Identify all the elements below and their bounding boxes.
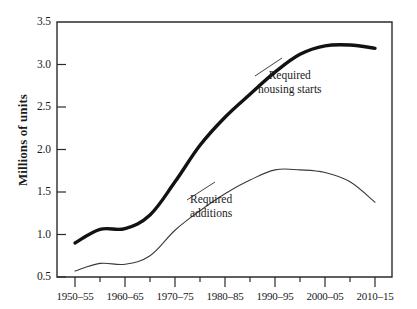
y-tick-label: 0.5 (11, 271, 51, 283)
x-tick-label: 2010–15 (343, 291, 407, 302)
y-tick-label: 1.5 (11, 186, 51, 198)
x-axis-ticks (75, 277, 375, 287)
annotation-additions-line2: additions (190, 206, 232, 220)
y-tick-label: 3.5 (11, 16, 51, 28)
annotation-housing-starts-line1: Required (258, 68, 322, 82)
y-tick-label: 2.0 (11, 144, 51, 156)
chart-axes (57, 22, 392, 277)
chart-figure: Millions of units 0.51.01.52.02.53.03.5 … (0, 0, 417, 309)
data-series-group (75, 45, 375, 271)
annotation-required-additions: Required additions (190, 192, 232, 220)
line-chart-canvas (0, 0, 417, 309)
y-tick-label: 1.0 (11, 229, 51, 241)
annotation-required-housing-starts: Required housing starts (258, 68, 322, 96)
y-tick-label: 2.5 (11, 101, 51, 113)
y-tick-label: 3.0 (11, 59, 51, 71)
axis-frame (57, 22, 392, 277)
y-axis-ticks (57, 65, 66, 278)
annotation-additions-line1: Required (190, 192, 232, 206)
annotation-housing-starts-line2: housing starts (258, 82, 322, 96)
